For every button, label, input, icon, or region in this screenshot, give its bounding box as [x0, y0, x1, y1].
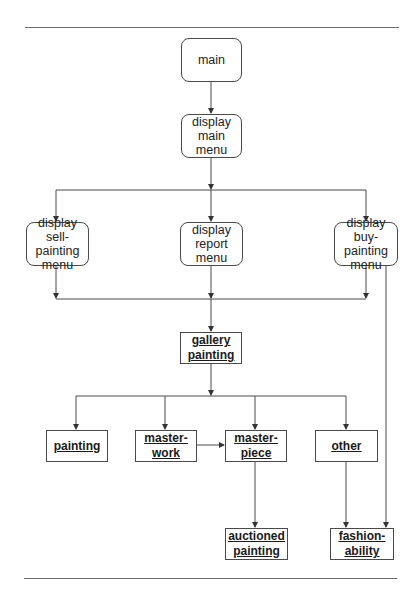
node-display-sell-painting-menu: display sell- painting menu [26, 222, 89, 266]
node-auctioned-painting: auctionedpainting [225, 528, 288, 560]
node-display-buy-painting-menu: display buy- painting menu [334, 222, 398, 266]
node-display-main-menu: display main menu [181, 114, 242, 158]
node-label: display main menu [192, 115, 231, 157]
node-label: gallerypainting [188, 333, 235, 363]
node-label: other [332, 439, 362, 454]
node-label: master-piece [234, 431, 277, 461]
node-label: fashion-ability [339, 529, 386, 559]
node-label: auctionedpainting [228, 529, 285, 559]
node-gallery-painting: gallerypainting [180, 332, 242, 364]
node-masterpiece: master-piece [225, 430, 287, 462]
node-main: main [181, 38, 242, 82]
node-label: main [198, 53, 225, 67]
node-painting: painting [46, 430, 108, 462]
bottom-rule [24, 578, 397, 579]
node-label: painting [54, 439, 101, 454]
node-masterwork: master-work [135, 430, 197, 462]
node-fashionability: fashion-ability [330, 528, 394, 560]
connector-lines [0, 0, 417, 594]
node-display-report-menu: display report menu [180, 222, 243, 266]
node-other: other [315, 430, 378, 462]
node-label: display buy- painting menu [335, 216, 397, 272]
node-label: display sell- painting menu [27, 216, 88, 272]
node-label: master-work [144, 431, 187, 461]
node-label: display report menu [192, 223, 231, 265]
